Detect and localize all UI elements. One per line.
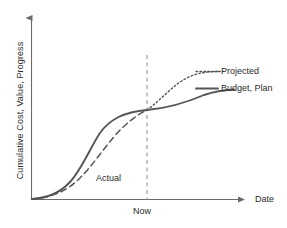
- s-curve-chart: Cumulative Cost, Value, Progress Date No…: [0, 0, 287, 228]
- legend-label-budget-plan: Budget, Plan: [221, 84, 273, 93]
- now-axis-label: Now: [133, 207, 151, 216]
- x-axis-label: Date: [255, 195, 274, 204]
- y-axis-label: Cumulative Cost, Value, Progress: [16, 36, 25, 186]
- series-label-actual: Actual: [96, 174, 121, 183]
- series-line-projected: [147, 71, 226, 110]
- legend-label-projected: Projected: [221, 67, 259, 76]
- chart-canvas: [0, 0, 287, 228]
- series-line-budget-plan: [32, 90, 234, 200]
- series-line-actual: [32, 110, 147, 199]
